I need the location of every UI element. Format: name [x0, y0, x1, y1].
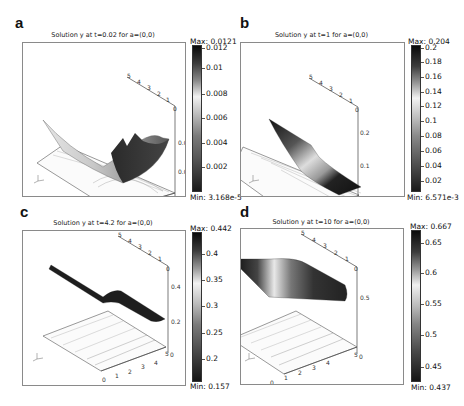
svg-text:5: 5 [309, 73, 313, 80]
svg-text:1: 1 [284, 374, 288, 381]
colorbar-tick: 0.008 [206, 89, 227, 98]
svg-text:1: 1 [345, 255, 349, 262]
colorbar-tick: 0.16 [425, 72, 442, 81]
colorbar [411, 45, 421, 192]
panel-letter: a [15, 14, 23, 31]
svg-text:4: 4 [319, 79, 323, 86]
surface-svg: 543210 0.010.0050 012345 [23, 43, 185, 196]
panel-letter: c [20, 203, 28, 220]
svg-text:3: 3 [329, 85, 333, 92]
svg-text:5: 5 [165, 350, 169, 357]
panel-title: Solution y at t=4.2 for a=(0,0) [22, 219, 184, 227]
panel-letter: b [240, 14, 249, 31]
svg-text:5: 5 [354, 351, 358, 358]
colorbar-tick: 0.2 [206, 354, 218, 363]
colorbar-tick: 0.006 [206, 113, 227, 122]
svg-text:0.01: 0.01 [178, 139, 185, 146]
surface-plot: 543210 0.010.0050 012345 [22, 42, 186, 197]
colorbar-tick: 0.02 [425, 176, 442, 185]
svg-text:0.2: 0.2 [171, 318, 181, 325]
svg-text:0.1: 0.1 [360, 162, 370, 169]
surface-svg: 543210 0.20.10 012345 [241, 43, 404, 196]
panel-title: Solution y at t=1 for a=(0,0) [240, 31, 403, 39]
colorbar-tick: 0.4 [206, 249, 218, 258]
svg-text:5: 5 [127, 72, 131, 79]
svg-text:2: 2 [339, 91, 343, 98]
colorbar-tick: 0.08 [425, 131, 442, 140]
svg-text:0.4: 0.4 [171, 283, 181, 290]
colorbar-tick: 0.04 [425, 161, 442, 170]
colorbar-tick: 0.14 [425, 87, 442, 96]
svg-text:5: 5 [118, 231, 122, 238]
svg-text:2: 2 [157, 90, 161, 97]
colorbar-tick: 0.3 [206, 301, 218, 310]
svg-text:4: 4 [326, 359, 330, 366]
colorbar-min-label: Min: 6.571e-3 [407, 193, 459, 202]
colorbar-tick: 0.55 [425, 299, 442, 308]
svg-text:1: 1 [349, 97, 353, 104]
surface-plot: 543210 0.40.20 012345 [22, 230, 186, 386]
svg-text:4: 4 [137, 78, 141, 85]
svg-text:4: 4 [154, 359, 158, 366]
svg-text:1: 1 [166, 96, 170, 103]
svg-text:4: 4 [312, 236, 316, 243]
colorbar-tick: 0.12 [425, 101, 442, 110]
svg-text:0: 0 [270, 379, 274, 384]
svg-text:0.2: 0.2 [360, 129, 370, 136]
svg-text:3: 3 [312, 364, 316, 371]
colorbar-tick: 0.1 [425, 116, 437, 125]
surface-plot: 543210 0.20.10 012345 [240, 42, 405, 197]
colorbar-tick: 0.65 [425, 238, 442, 247]
colorbar-tick: 0.25 [206, 328, 223, 337]
svg-text:0: 0 [177, 195, 181, 196]
colorbar-tick: 0.45 [425, 362, 442, 371]
svg-text:5: 5 [301, 229, 305, 236]
colorbar-min-label: Min: 0.437 [411, 383, 451, 392]
colorbar-tick: 0.18 [425, 57, 442, 66]
svg-text:0: 0 [354, 265, 358, 272]
colorbar-tick: 0.6 [425, 268, 437, 277]
colorbar-tick: 0.35 [206, 275, 223, 284]
svg-text:3: 3 [141, 363, 145, 370]
svg-text:2: 2 [298, 369, 302, 376]
surface-plot: 543210 0.50 012345 [240, 228, 404, 385]
colorbar-tick: 0.002 [206, 162, 227, 171]
svg-text:3: 3 [147, 84, 151, 91]
colorbar-min-label: Min: 3.168e-5 [190, 193, 242, 202]
axes-orientation-icon [34, 175, 44, 183]
surface-svg: 543210 0.50 012345 [241, 229, 403, 384]
svg-text:1: 1 [115, 372, 119, 379]
svg-text:0.5: 0.5 [360, 294, 370, 301]
svg-text:1: 1 [158, 255, 162, 262]
colorbar-max-label: Max: 0.667 [410, 222, 452, 231]
colorbar-tick: 0.012 [206, 43, 227, 52]
colorbar-tick: 0.004 [206, 138, 227, 147]
svg-text:3: 3 [323, 242, 327, 249]
colorbar-min-label: Min: 0.157 [190, 382, 230, 391]
svg-text:0: 0 [170, 351, 174, 358]
colorbar-tick: 0.06 [425, 146, 442, 155]
axes-orientation-icon [33, 353, 43, 361]
svg-text:0: 0 [355, 106, 359, 113]
svg-text:2: 2 [148, 249, 152, 256]
svg-text:3: 3 [138, 243, 142, 250]
colorbar [411, 230, 421, 382]
svg-text:0.005: 0.005 [178, 168, 185, 175]
colorbar [192, 45, 202, 192]
svg-text:0: 0 [102, 376, 106, 383]
svg-text:2: 2 [128, 368, 132, 375]
svg-text:2: 2 [334, 249, 338, 256]
svg-text:0: 0 [359, 353, 363, 360]
colorbar-tick: 0.2 [425, 43, 437, 52]
colorbar [192, 232, 202, 382]
panel-title: Solution y at t=0.02 for a=(0,0) [22, 31, 184, 39]
colorbar-tick: 0.5 [425, 330, 437, 339]
colorbar-tick: 0.01 [206, 63, 223, 72]
panel-title: Solution y at t=10 for a=(0,0) [240, 218, 402, 226]
svg-text:4: 4 [128, 237, 132, 244]
surface-svg: 543210 0.40.20 012345 [23, 231, 185, 385]
colorbar-max-label: Max: 0.442 [190, 224, 232, 233]
